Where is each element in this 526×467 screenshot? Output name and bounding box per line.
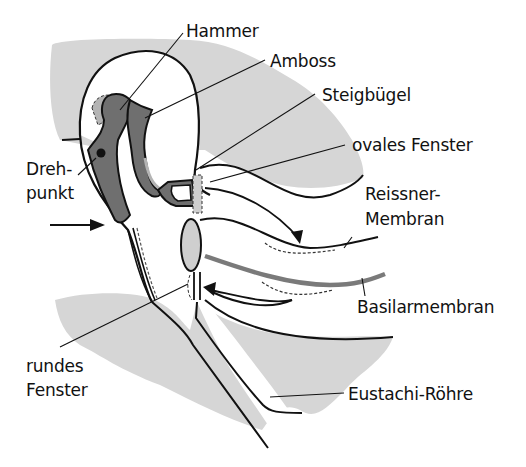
- label-hammer: Hammer: [186, 20, 259, 42]
- label-amboss: Amboss: [270, 50, 336, 72]
- label-drehpunkt-line1: Dreh-: [26, 158, 72, 180]
- label-rundes-line2: Fenster: [26, 379, 88, 401]
- pressure-wave-arrow-scala-vestibuli: [205, 188, 300, 240]
- pivot-point: [97, 149, 106, 158]
- label-reissner-line2: Membran: [365, 208, 444, 230]
- label-eustachi-roehre: Eustachi-Röhre: [348, 383, 473, 405]
- label-reissner-line1: Reissner-: [365, 183, 440, 205]
- oval-window-plate: [193, 175, 202, 213]
- label-ovales-fenster: ovales Fenster: [352, 134, 473, 156]
- reissner-membrane: [200, 218, 378, 248]
- basilar-membrane: [205, 256, 385, 285]
- label-rundes-line1: rundes: [26, 355, 83, 377]
- label-steigbuegel: Steigbügel: [322, 84, 411, 106]
- ear-mechanics-diagram: Hammer Amboss Steigbügel ovales Fenster …: [0, 0, 526, 467]
- label-drehpunkt-line2: punkt: [26, 182, 74, 204]
- label-basilarmembran: Basilarmembran: [357, 296, 494, 318]
- round-window-membrane: [181, 219, 201, 271]
